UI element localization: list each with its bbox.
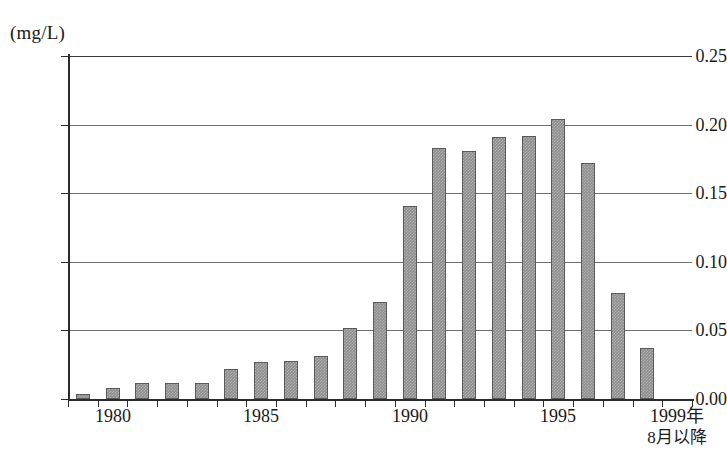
bar-1989 xyxy=(373,302,387,399)
x-tick xyxy=(68,399,69,407)
x-axis-line xyxy=(68,399,694,401)
x-label-text: 1980 xyxy=(95,406,131,426)
x-tick xyxy=(514,399,515,407)
x-label-text: 1999年 xyxy=(650,406,704,426)
x-label-text: 1995 xyxy=(540,406,576,426)
x-label-text: 1985 xyxy=(243,406,279,426)
bar-1986 xyxy=(284,361,298,399)
x-tick xyxy=(454,399,455,407)
x-axis-tick-label-1990: 1990 xyxy=(392,406,428,427)
x-tick xyxy=(603,399,604,407)
bar-1979 xyxy=(76,394,90,399)
bar-1985 xyxy=(254,362,268,399)
x-label-text: 1990 xyxy=(392,406,428,426)
x-tick xyxy=(306,399,307,407)
bar-1991 xyxy=(432,148,446,399)
x-tick xyxy=(365,399,366,407)
y-axis-unit-label: (mg/L) xyxy=(10,22,65,44)
x-tick xyxy=(633,399,634,407)
x-axis-tick-label-1995: 1995 xyxy=(540,406,576,427)
x-axis-tick-label-1980: 1980 xyxy=(95,406,131,427)
x-tick xyxy=(187,399,188,407)
bar-1984 xyxy=(224,369,238,399)
bar-1992 xyxy=(462,151,476,399)
bar-1981 xyxy=(135,383,149,399)
bar-1996 xyxy=(581,163,595,399)
bar-chart: (mg/L) 0.000.050.100.150.200.25 19801985… xyxy=(0,0,727,464)
x-tick xyxy=(484,399,485,407)
bar-1993 xyxy=(492,137,506,399)
x-label-subtext: 8月以降 xyxy=(647,427,707,448)
bar-1982 xyxy=(165,383,179,399)
bar-1983 xyxy=(195,383,209,399)
bar-1997 xyxy=(611,293,625,399)
bar-1988 xyxy=(343,328,357,399)
x-tick xyxy=(157,399,158,407)
bar-1987 xyxy=(314,356,328,399)
bar-1994 xyxy=(522,136,536,399)
bar-1990 xyxy=(403,206,417,399)
x-tick xyxy=(335,399,336,407)
x-axis-tick-label-1985: 1985 xyxy=(243,406,279,427)
bar-1998 xyxy=(640,348,654,399)
x-tick xyxy=(217,399,218,407)
bar-1995 xyxy=(551,119,565,399)
bar-1980 xyxy=(106,388,120,399)
x-axis-tick-label-1999: 1999年8月以降 xyxy=(647,406,707,448)
bars-group xyxy=(68,56,692,399)
